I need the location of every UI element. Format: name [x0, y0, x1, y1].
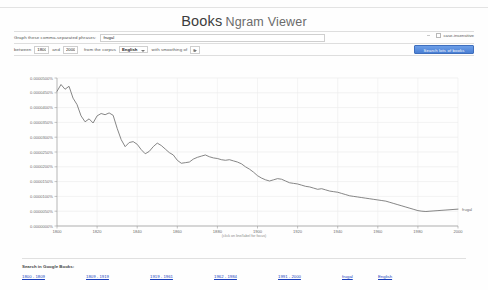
footer-link-1[interactable]: 1809 - 1919: [86, 274, 150, 279]
footer-divider: [22, 258, 466, 259]
y-tick-label: 0.0000400%: [30, 105, 53, 110]
case-insensitive-label: case-insensitive: [443, 33, 474, 38]
smoothing-chevron-down-icon: [193, 50, 197, 52]
footer-title: Search in Google Books:: [22, 264, 466, 269]
brand-ngram-viewer: Ngram Viewer: [225, 15, 306, 29]
chart-annotation: (click on line/label for focus): [0, 234, 488, 238]
query-form: Graph these comma-separated phrases: cas…: [0, 31, 488, 56]
y-tick-label: 0.0000100%: [30, 194, 53, 199]
year-start-input[interactable]: [34, 46, 49, 54]
phrase-row: Graph these comma-separated phrases: cas…: [14, 32, 474, 43]
page-title: BooksNgram Viewer: [181, 13, 307, 29]
smoothing-label: with smoothing of: [152, 47, 188, 52]
search-button[interactable]: Search lots of books: [414, 45, 474, 54]
y-tick-label: 0.0000500%: [30, 76, 53, 81]
and-label: and: [52, 47, 60, 52]
ngram-chart[interactable]: 0.0000500%0.0000450%0.0000400%0.0000350%…: [0, 58, 488, 240]
phrase-input[interactable]: [100, 34, 325, 42]
corpus-select-value: English: [122, 47, 138, 52]
footer-link-6[interactable]: English: [378, 274, 414, 279]
corpus-select-wrap[interactable]: English: [119, 46, 148, 54]
range-row: between and from the corpus English with…: [14, 44, 474, 55]
footer-link-5[interactable]: frugal: [342, 274, 378, 279]
series-label-frugal[interactable]: frugal: [462, 207, 472, 212]
top-divider: [0, 7, 488, 8]
phrase-label: Graph these comma-separated phrases:: [14, 35, 96, 40]
y-tick-label: 0.0000050%: [30, 209, 53, 214]
case-insensitive-control[interactable]: case-insensitive: [436, 33, 474, 38]
corpus-select[interactable]: English: [119, 46, 148, 53]
y-tick-label: 0.0000000%: [30, 224, 53, 229]
page-header: BooksNgram Viewer: [0, 12, 488, 32]
chart-canvas[interactable]: 0.0000500%0.0000450%0.0000400%0.0000350%…: [0, 58, 488, 240]
footer-link-0[interactable]: 1800 - 1809: [22, 274, 86, 279]
y-tick-label: 0.0000350%: [30, 120, 53, 125]
y-tick-label: 0.0000250%: [30, 150, 53, 155]
footer-link-2[interactable]: 1919 - 1961: [150, 274, 214, 279]
between-label: between: [14, 47, 31, 52]
footer-link-4[interactable]: 1991 - 2000: [278, 274, 342, 279]
case-insensitive-checkbox[interactable]: [436, 33, 441, 38]
year-end-input[interactable]: [63, 46, 78, 54]
brand-books: Books: [181, 13, 222, 29]
corpus-label: from the corpus: [84, 47, 116, 52]
y-tick-label: 0.0000450%: [30, 90, 53, 95]
footer: Search in Google Books: 1800 - 18091809 …: [22, 258, 466, 279]
chevron-down-icon: [141, 50, 145, 52]
form-separator: [427, 35, 430, 36]
y-tick-label: 0.0000300%: [30, 135, 53, 140]
y-tick-label: 0.0000200%: [30, 164, 53, 169]
footer-link-list: 1800 - 18091809 - 19191919 - 19611962 - …: [22, 274, 466, 279]
form-bottom-divider: [14, 55, 474, 56]
smoothing-select[interactable]: 3: [190, 46, 200, 54]
ngram-viewer-page: BooksNgram Viewer Graph these comma-sepa…: [0, 0, 488, 290]
footer-link-3[interactable]: 1962 - 1984: [214, 274, 278, 279]
y-tick-label: 0.0000150%: [30, 179, 53, 184]
